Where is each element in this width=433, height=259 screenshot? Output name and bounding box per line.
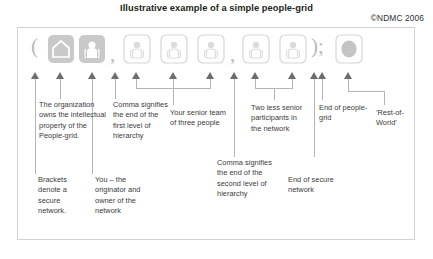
leader-junior-2	[292, 79, 293, 88]
leader-rest-of-world-stem	[348, 79, 349, 91]
arrow-semicolon	[318, 72, 326, 79]
leader-rest-of-world-drop	[384, 91, 385, 105]
leader-semicolon	[322, 79, 323, 100]
comma-first: ,	[110, 44, 115, 65]
house-icon	[47, 34, 75, 64]
senior-tile-3[interactable]	[197, 34, 225, 64]
leader-rest-of-world-bridge	[348, 91, 384, 92]
figure-title: Illustrative example of a simple people-…	[0, 3, 433, 13]
callout-rest-of-world: 'Rest-of-World'	[376, 108, 418, 129]
leader-senior-stem	[173, 88, 174, 105]
senior-tile-1[interactable]	[123, 34, 151, 64]
leader-senior-1	[136, 79, 137, 88]
callout-end-of-people-grid: End of people-grid	[319, 103, 369, 124]
arrow-comma-first	[111, 72, 119, 79]
leader-brackets	[35, 79, 36, 174]
arrow-junior-2	[288, 72, 296, 79]
open-bracket: (	[31, 36, 38, 57]
organization-tile[interactable]	[47, 34, 75, 64]
person-icon	[123, 34, 151, 64]
copyright-notice: ©NDMC 2006	[371, 13, 424, 23]
callout-comma-second: Comma signifies the end of the second le…	[217, 158, 275, 200]
close-bracket-semicolon: );	[311, 36, 324, 57]
junior-tile-1[interactable]	[242, 34, 270, 64]
leader-senior-3	[210, 79, 211, 88]
arrow-close-bracket	[310, 72, 318, 79]
person-icon	[197, 34, 225, 64]
callout-brackets: Brackets denote a secure network.	[38, 175, 86, 217]
callout-end-of-secure-network: End of secure network	[288, 175, 348, 196]
person-icon	[160, 34, 188, 64]
arrow-brackets	[31, 72, 39, 79]
leader-junior-stem	[274, 88, 275, 100]
callout-comma-first: Comma signifies the end of the first lev…	[113, 100, 168, 142]
callout-senior-team: Your senior team of three people	[170, 108, 228, 129]
person-icon	[242, 34, 270, 64]
person-icon	[279, 34, 307, 64]
arrow-originator	[88, 72, 96, 79]
arrow-comma-second	[230, 72, 238, 79]
arrow-senior-3	[206, 72, 214, 79]
arrow-senior-1	[132, 72, 140, 79]
leader-comma-first	[115, 79, 116, 99]
callout-organization: The organization owns the intellectual p…	[39, 100, 109, 142]
arrow-rest-of-world	[344, 72, 352, 79]
person-icon	[78, 34, 106, 64]
arrow-organization	[56, 72, 64, 79]
senior-tile-2[interactable]	[160, 34, 188, 64]
rest-of-world-tile[interactable]	[335, 34, 363, 64]
globe-icon	[335, 34, 363, 64]
leader-comma-second	[234, 79, 235, 157]
figure-canvas: Illustrative example of a simple people-…	[0, 0, 433, 259]
leader-close-bracket	[314, 79, 315, 157]
leader-junior-1	[255, 79, 256, 88]
leader-organization	[60, 79, 61, 99]
leader-senior-2	[173, 79, 174, 88]
arrow-junior-1	[251, 72, 259, 79]
comma-second: ,	[230, 44, 235, 65]
originator-tile[interactable]	[78, 34, 106, 64]
arrow-senior-2	[169, 72, 177, 79]
callout-two-less-senior: Two less senior participants in the netw…	[251, 103, 306, 134]
callout-originator: You – the originator and owner of the ne…	[95, 175, 153, 217]
junior-tile-2[interactable]	[279, 34, 307, 64]
